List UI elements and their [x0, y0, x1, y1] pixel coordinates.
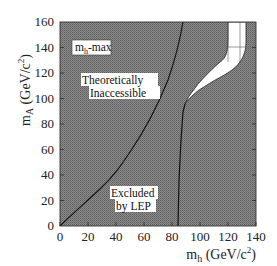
x-tick: 60 — [138, 229, 151, 244]
y-tick: 40 — [41, 167, 54, 182]
y-tick: 100 — [35, 91, 55, 106]
x-tick: 0 — [57, 229, 64, 244]
y-tick: 0 — [48, 218, 55, 233]
x-tick: 20 — [82, 229, 95, 244]
x-tick: 40 — [110, 229, 123, 244]
scenario-label: mh-max — [72, 40, 112, 56]
y-tick: 60 — [41, 142, 54, 157]
y-tick: 20 — [41, 193, 54, 208]
y-tick: 160 — [35, 14, 55, 29]
y-tick: 140 — [35, 40, 55, 55]
excluded-by-lep-label: Excluded by LEP — [110, 186, 158, 213]
exclusion-chart: 0 20 40 60 80 100 120 140 0 20 40 60 80 … — [0, 0, 277, 266]
svg-text:Inaccessible: Inaccessible — [90, 87, 146, 99]
y-tick-labels: 0 20 40 60 80 100 120 140 160 — [35, 14, 55, 233]
y-tick: 120 — [35, 65, 55, 80]
x-tick: 100 — [190, 229, 210, 244]
x-tick: 140 — [246, 229, 266, 244]
x-axis-title: mh (GeV/c2) — [186, 245, 256, 264]
x-tick: 120 — [218, 229, 238, 244]
svg-text:Excluded: Excluded — [111, 187, 155, 199]
x-tick-labels: 0 20 40 60 80 100 120 140 — [57, 229, 266, 244]
svg-text:Theoretically: Theoretically — [82, 74, 144, 87]
y-axis-title: mA (GeV/c2) — [16, 54, 35, 126]
y-tick: 80 — [41, 116, 54, 131]
x-tick: 80 — [166, 229, 179, 244]
svg-text:by LEP: by LEP — [116, 200, 151, 213]
theoretically-inaccessible-label: Theoretically Inaccessible — [81, 73, 160, 99]
